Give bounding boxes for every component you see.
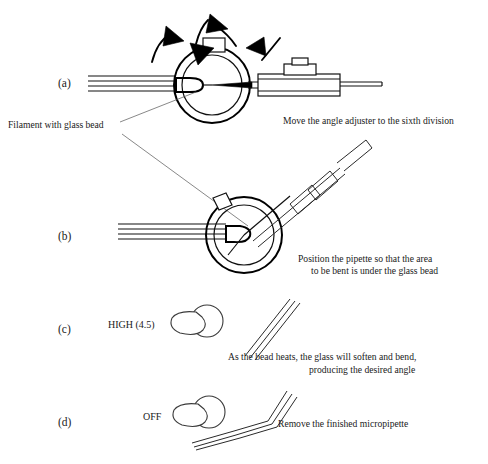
- heat-control-knob-d[interactable]: [173, 396, 225, 428]
- filament-label-text: Filament with glass bead: [8, 119, 104, 130]
- panel-a-label: (a): [58, 77, 71, 90]
- micropipette-procedure-diagram: (a): [0, 0, 488, 464]
- panel-d-caption: Remove the finished micropipette: [278, 418, 408, 429]
- panel-d-dial-setting: OFF: [143, 411, 162, 422]
- panel-d-label: (d): [58, 416, 72, 429]
- panel-b-caption-line-1: Position the pipette so that the area: [298, 253, 433, 264]
- filament-with-glass-bead-a: [176, 78, 212, 92]
- panel-b-caption-line-2: to be bent is under the glass bead: [311, 265, 438, 276]
- panel-d: (d) OFF Remove the finished micropipette: [58, 391, 408, 450]
- panel-b-label: (b): [58, 230, 72, 243]
- heat-control-knob-c[interactable]: [171, 305, 223, 337]
- filament-leads-b: [118, 224, 226, 239]
- filament-leader-line-to-b: [122, 134, 248, 226]
- panel-c-caption-line-1: As the bead heats, the glass will soften…: [228, 351, 416, 362]
- filament-leader-line-to-a: [120, 92, 196, 122]
- panel-a: (a): [58, 14, 454, 126]
- panel-c-dial-setting: HIGH (4.5): [108, 319, 155, 331]
- pipette-tip-b: [244, 168, 345, 247]
- panel-c: (c) HIGH (4.5) As the bead heats, the gl…: [58, 299, 416, 375]
- pipette-holder-b[interactable]: [290, 140, 372, 214]
- pipette-holder-a[interactable]: [258, 58, 382, 96]
- angle-adjuster-knob-b[interactable]: [213, 193, 232, 210]
- arrow-upper-left-a: [152, 26, 184, 62]
- arrow-right-a: [246, 37, 280, 60]
- panel-c-caption-line-2: producing the desired angle: [309, 364, 415, 375]
- panel-c-label: (c): [58, 323, 71, 336]
- panel-a-caption: Move the angle adjuster to the sixth div…: [283, 115, 454, 126]
- filament-with-glass-bead-b: [226, 226, 250, 255]
- figure-canvas: (a): [0, 0, 488, 464]
- filament-leads-a: [88, 76, 176, 91]
- filament-annotation: Filament with glass bead: [8, 92, 248, 226]
- panel-b: (b): [58, 140, 438, 276]
